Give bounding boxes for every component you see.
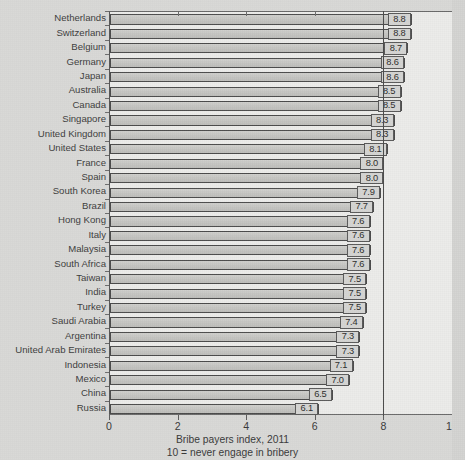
bar-value-text: 8.3 (376, 130, 388, 139)
bar (110, 260, 371, 270)
reference-line-8 (383, 11, 384, 416)
y-axis-tick (105, 69, 109, 70)
y-axis-label-south-korea: South Korea (2, 186, 106, 196)
y-axis-label-hong-kong: Hong Kong (2, 215, 106, 225)
bar (110, 390, 333, 400)
bar (110, 115, 395, 125)
bar-value-text: 7.3 (342, 332, 354, 341)
bar-value-text: 7.3 (342, 347, 354, 356)
y-axis-label-united-kingdom: United Kingdom (2, 129, 106, 139)
bar-row: 8.8 (110, 26, 452, 41)
y-axis-tick (105, 54, 109, 55)
bar (110, 231, 371, 241)
bar-value-label: 8.5 (378, 100, 401, 113)
x-axis-tick-label: 6 (312, 421, 318, 432)
y-axis-label-mexico: Mexico (2, 374, 106, 384)
bar-value-text: 6.1 (301, 404, 313, 413)
bar-row: 7.6 (110, 243, 452, 258)
bar-value-text: 7.0 (331, 376, 343, 385)
y-axis-label-malaysia: Malaysia (2, 244, 106, 254)
bar-row: 8.3 (110, 113, 452, 128)
y-axis-tick (105, 357, 109, 358)
bar (110, 317, 364, 327)
bar-row: 8.5 (110, 99, 452, 114)
bar (110, 144, 388, 154)
bar-value-text: 8.3 (376, 116, 388, 125)
bar-row: 8.6 (110, 55, 452, 70)
bar-value-label: 8.5 (378, 85, 401, 98)
y-axis-tick (105, 401, 109, 402)
y-axis-label-australia: Australia (2, 85, 106, 95)
bar (110, 346, 360, 356)
bar-value-label: 7.6 (347, 230, 370, 243)
bar-value-label: 8.7 (384, 42, 407, 55)
caption-line-2: 10 = never engage in bribery (0, 447, 465, 460)
bar-value-text: 8.5 (383, 101, 395, 110)
bar-value-label: 8.8 (388, 28, 411, 41)
bar (110, 87, 402, 97)
y-axis-tick (105, 170, 109, 171)
y-axis-label-china: China (2, 388, 106, 398)
bar-value-text: 8.5 (383, 87, 395, 96)
bar (110, 159, 384, 169)
y-axis-tick (105, 213, 109, 214)
bar-value-label: 7.6 (347, 258, 370, 271)
y-axis-tick (105, 300, 109, 301)
bar-value-label: 7.6 (347, 244, 370, 257)
bar-value-text: 8.8 (393, 15, 405, 24)
bar-row: 7.1 (110, 358, 452, 373)
bar-value-text: 7.6 (352, 231, 364, 240)
bar-value-text: 8.7 (390, 44, 402, 53)
bar (110, 332, 360, 342)
bar-value-text: 8.8 (393, 29, 405, 38)
y-axis-label-indonesia: Indonesia (2, 360, 106, 370)
y-axis-tick (105, 256, 109, 257)
y-axis-tick (105, 98, 109, 99)
x-axis-tick-top (178, 12, 179, 16)
y-axis-label-canada: Canada (2, 100, 106, 110)
y-axis-tick (105, 155, 109, 156)
bar (110, 173, 384, 183)
bar (110, 58, 405, 68)
x-axis-tick-label: 4 (243, 421, 249, 432)
bar (110, 245, 371, 255)
y-axis-label-brazil: Brazil (2, 201, 106, 211)
bar-value-text: 7.1 (335, 361, 347, 370)
y-axis-label-united-states: United States (2, 143, 106, 153)
bar (110, 101, 402, 111)
y-axis-label-taiwan: Taiwan (2, 273, 106, 283)
bar (110, 202, 374, 212)
y-axis-label-france: France (2, 158, 106, 168)
bar-row: 7.5 (110, 286, 452, 301)
y-axis-tick (105, 112, 109, 113)
bar (110, 72, 405, 82)
bar-value-text: 8.0 (366, 174, 378, 183)
y-axis-tick (105, 372, 109, 373)
bar-value-label: 8.3 (371, 114, 394, 127)
bar (110, 188, 381, 198)
bar (110, 29, 412, 39)
y-axis-label-japan: Japan (2, 71, 106, 81)
x-axis-tick-label: 2 (175, 421, 181, 432)
bar-row: 8.8 (110, 12, 452, 27)
bar-value-text: 7.6 (352, 260, 364, 269)
y-axis-tick (105, 83, 109, 84)
y-axis-label-south-africa: South Africa (2, 259, 106, 269)
x-axis-tick-label: 8 (380, 421, 386, 432)
y-axis-tick (105, 11, 109, 12)
bar-value-text: 7.5 (349, 275, 361, 284)
bar-row: 8.0 (110, 171, 452, 186)
bar-row: 7.0 (110, 373, 452, 388)
caption-line-1: Bribe payers index, 2011 (0, 434, 465, 447)
bar-value-label: 7.1 (330, 359, 353, 372)
y-axis-tick (105, 141, 109, 142)
bar (110, 130, 395, 140)
y-axis-label-belgium: Belgium (2, 42, 106, 52)
bar-value-label: 7.9 (357, 186, 380, 199)
bar-value-label: 7.5 (343, 287, 366, 300)
bar (110, 216, 371, 226)
bar-row: 8.3 (110, 127, 452, 142)
bar-row: 7.3 (110, 329, 452, 344)
bar-value-label: 7.6 (347, 215, 370, 228)
bar-row: 7.6 (110, 257, 452, 272)
